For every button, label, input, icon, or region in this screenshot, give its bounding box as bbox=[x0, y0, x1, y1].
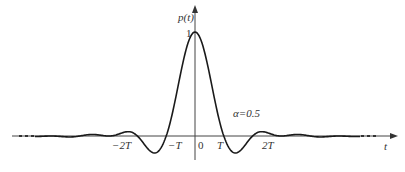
continuation-dots-left bbox=[19, 135, 34, 137]
x-tick-zero: 0 bbox=[198, 140, 204, 151]
x-tick-neg2T: −2T bbox=[112, 140, 131, 151]
pulse-curve bbox=[35, 32, 360, 153]
x-tick-negT: −T bbox=[168, 140, 182, 151]
y-tick-one: 1 bbox=[186, 28, 192, 39]
x-tick-T: T bbox=[217, 140, 223, 151]
x-tick-2T: 2T bbox=[262, 140, 274, 151]
x-axis-arrow-icon bbox=[390, 133, 398, 139]
continuation-dots-right bbox=[361, 135, 376, 137]
y-axis-label: p(t) bbox=[178, 12, 194, 23]
alpha-annotation: α=0.5 bbox=[233, 108, 260, 119]
x-axis-label: t bbox=[384, 141, 387, 152]
